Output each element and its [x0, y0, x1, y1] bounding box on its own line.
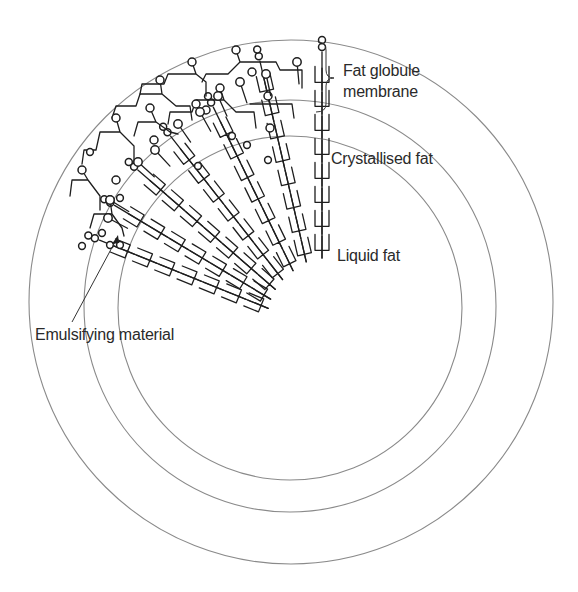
fat-chain: [160, 123, 284, 279]
arrow-head-icon: [112, 235, 119, 244]
emulsifier-head-icon: [125, 159, 132, 166]
outer-membrane-boundary: [29, 40, 553, 564]
membrane-head-icon: [150, 136, 158, 144]
emulsifier-head-icon: [254, 46, 261, 53]
fat-chain: [125, 159, 275, 290]
fat-chain: [254, 46, 312, 262]
triglyceride-fork: [273, 144, 290, 169]
triglyceride-fork: [234, 160, 254, 184]
membrane-phospholipid: [82, 118, 134, 164]
triglyceride-fork: [247, 281, 271, 301]
emulsifier-head-icon: [255, 53, 262, 60]
fat-globule-diagram: [0, 0, 578, 592]
loose-head-icon: [99, 230, 106, 237]
globule-rings: [29, 40, 553, 564]
lollipop-head-icon: [174, 120, 182, 128]
membrane-head-icon: [266, 124, 274, 132]
membrane-head-icon: [232, 46, 240, 54]
membrane-head-icon: [146, 104, 154, 112]
triglyceride-fork: [144, 219, 168, 239]
membrane-head-icon: [156, 76, 164, 84]
label-fat-globule-membrane-line1: Fat globule: [343, 63, 420, 79]
triglyceride-fork: [185, 244, 209, 264]
fat-chain: [315, 37, 329, 259]
triglyceride-fork: [245, 182, 265, 206]
triglyceride-fork: [177, 266, 201, 285]
membrane-phospholipid: [140, 62, 206, 96]
triglyceride-fork: [133, 248, 157, 267]
triglyceride-fork: [294, 237, 311, 262]
lollipop-head-icon: [106, 196, 114, 204]
membrane-head-icon: [112, 114, 120, 122]
triglyceride-fork: [222, 284, 246, 303]
lollipop-head-icon: [236, 78, 244, 86]
loose-head-icon: [87, 149, 94, 156]
loose-head-icon: [79, 243, 86, 250]
triglyceride-fork: [206, 256, 230, 276]
label-emulsifying-material: Emulsifying material: [35, 327, 174, 343]
lollipop-head-icon: [134, 158, 142, 166]
triglyceride-fork: [224, 139, 244, 163]
membrane-head-icon: [188, 58, 196, 66]
loose-head-icon: [195, 163, 202, 170]
lollipop-head-icon: [214, 92, 222, 100]
label-liquid-fat: Liquid fat: [337, 248, 400, 264]
triglyceride-fork: [255, 203, 275, 227]
lollipop-head-icon: [293, 58, 301, 66]
label-fat-globule-membrane-line2: membrane: [343, 84, 418, 100]
loose-head-icon: [229, 133, 236, 140]
inner-membrane-boundary: [84, 100, 496, 512]
emulsifying-pointer-line: [72, 240, 116, 322]
lollipop-head-icon: [262, 70, 270, 78]
emulsifier-head-icon: [85, 232, 92, 239]
membrane-phospholipid: [70, 170, 100, 210]
lollipop-head-icon: [196, 108, 204, 116]
membrane-head-icon: [248, 68, 256, 76]
triglyceride-fork: [278, 167, 295, 192]
lollipop-head-icon: [104, 214, 112, 222]
lollipop-head-icon: [151, 146, 159, 154]
triglyceride-fork: [276, 246, 296, 270]
membrane-head-icon: [112, 176, 120, 184]
triglyceride-fork: [155, 257, 179, 276]
label-crystallised-fat: Crystallised fat: [331, 151, 433, 167]
loose-head-icon: [244, 142, 251, 149]
triglyceride-fork: [289, 214, 306, 239]
membrane-head-icon: [216, 84, 224, 92]
triglyceride-chains: [85, 37, 329, 312]
fat-core-boundary: [118, 136, 462, 480]
triglyceride-fork: [164, 232, 188, 252]
fat-chain: [205, 93, 296, 271]
triglyceride-fork: [283, 191, 300, 216]
triglyceride-fork: [266, 225, 286, 249]
loose-head-icon: [117, 195, 124, 202]
membrane-head-icon: [78, 166, 86, 174]
triglyceride-fork: [199, 275, 223, 294]
loose-head-icon: [265, 157, 272, 164]
membrane-head-icon: [192, 100, 200, 108]
